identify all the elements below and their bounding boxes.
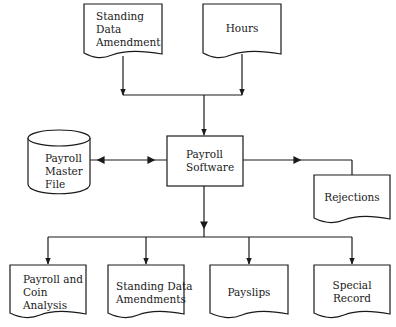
- label-payroll-coin-analysis: Payroll and Coin Analysis: [23, 273, 83, 312]
- label-line: Record: [314, 292, 390, 305]
- label-line: Amendments: [116, 293, 193, 306]
- label-payroll-master-file: Payroll Master File: [45, 152, 83, 191]
- label-hours: Hours: [203, 22, 281, 35]
- label-standing-data-amendments: Standing Data Amendments: [116, 280, 193, 306]
- label-line: Special: [314, 279, 390, 292]
- label-line: Payroll: [45, 152, 83, 165]
- label-line: Software: [186, 161, 234, 174]
- label-line: Master: [45, 165, 83, 178]
- label-line: File: [45, 178, 83, 191]
- label-line: Coin: [23, 286, 83, 299]
- label-line: Payroll: [186, 148, 234, 161]
- label-line: Payroll and: [23, 273, 83, 286]
- label-rejections: Rejections: [314, 191, 390, 204]
- label-payroll-software: Payroll Software: [186, 148, 234, 174]
- payroll-flowchart: Standing Data Amendment Hours Payroll So…: [0, 0, 396, 327]
- label-line: Data: [96, 23, 160, 36]
- label-line: Standing Data: [116, 280, 193, 293]
- label-payslips: Payslips: [210, 286, 288, 299]
- label-line: Standing: [96, 10, 160, 23]
- label-standing-data-amendment: Standing Data Amendment: [96, 10, 160, 49]
- label-special-record: Special Record: [314, 279, 390, 305]
- label-line: Amendment: [96, 36, 160, 49]
- label-line: Analysis: [23, 299, 83, 312]
